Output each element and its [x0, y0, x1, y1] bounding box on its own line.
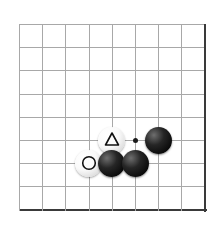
grid-line-vertical — [89, 24, 90, 211]
grid-line-vertical — [112, 24, 113, 211]
black-stone-right[interactable] — [145, 127, 172, 154]
grid-line-vertical — [181, 24, 182, 211]
board-bottom-edge — [19, 209, 207, 211]
go-board[interactable] — [0, 0, 224, 237]
black-stone-lower-right[interactable] — [122, 150, 149, 177]
grid-line-vertical — [19, 24, 20, 211]
board-right-edge — [204, 24, 206, 212]
grid-line-vertical — [135, 24, 136, 211]
grid-line-vertical — [42, 24, 43, 211]
grid-line-vertical — [158, 24, 159, 211]
grid-line-vertical — [65, 24, 66, 211]
star-point-1-icon — [133, 138, 138, 143]
